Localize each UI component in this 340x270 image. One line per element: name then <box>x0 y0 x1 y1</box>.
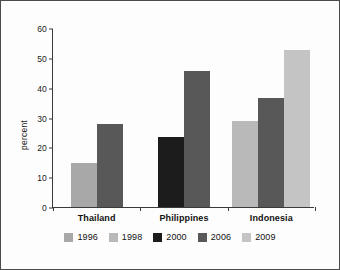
legend-item: 2000 <box>153 232 186 242</box>
x-axis-tick-mark <box>140 207 141 211</box>
legend-item: 1996 <box>64 232 97 242</box>
legend-item: 2009 <box>242 232 275 242</box>
legend-swatch-icon <box>242 233 251 242</box>
legend-swatch-icon <box>198 233 207 242</box>
bar <box>284 50 310 207</box>
legend-label: 2009 <box>255 232 275 242</box>
chart-legend: 19961998200020062009 <box>1 232 339 242</box>
x-axis-category-label: Philippines <box>159 213 208 223</box>
bar <box>71 163 97 207</box>
legend-item: 1998 <box>109 232 142 242</box>
x-axis-tick-mark <box>315 207 316 211</box>
y-axis-tick-mark <box>49 88 53 89</box>
x-axis-tick-mark <box>228 207 229 211</box>
plot-area: 0102030405060 ThailandPhilippinesIndones… <box>52 29 314 208</box>
y-axis-tick-mark <box>49 118 53 119</box>
x-axis-category-label: Thailand <box>78 213 116 223</box>
bar <box>158 137 184 207</box>
bar <box>184 71 210 207</box>
bar <box>97 124 123 207</box>
legend-label: 1996 <box>77 232 97 242</box>
y-axis-tick-mark <box>49 58 53 59</box>
bar-group <box>232 29 310 207</box>
bar-group <box>71 29 123 207</box>
legend-label: 1998 <box>122 232 142 242</box>
y-axis-title: percent <box>19 120 29 150</box>
y-axis-tick-mark <box>49 148 53 149</box>
x-axis-tick-mark <box>53 207 54 211</box>
legend-swatch-icon <box>153 233 162 242</box>
bar <box>258 98 284 207</box>
y-axis-tick-mark <box>49 178 53 179</box>
y-axis-tick-mark <box>49 29 53 30</box>
legend-label: 2000 <box>166 232 186 242</box>
x-axis-category-label: Indonesia <box>250 213 293 223</box>
legend-swatch-icon <box>64 233 73 242</box>
bar <box>232 121 258 207</box>
legend-item: 2006 <box>198 232 231 242</box>
legend-swatch-icon <box>109 233 118 242</box>
legend-label: 2006 <box>211 232 231 242</box>
bar-group <box>158 29 210 207</box>
chart-figure: percent 0102030405060 ThailandPhilippine… <box>0 0 340 270</box>
